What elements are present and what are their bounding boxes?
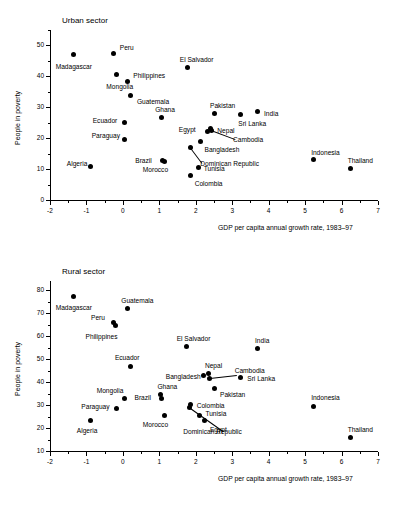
x-tick-minor: [141, 452, 142, 454]
data-point: [162, 159, 167, 164]
x-tick-label: 5: [293, 458, 317, 465]
data-point: [71, 294, 76, 299]
point-label: Colombia: [197, 402, 225, 409]
y-tick-label: 20: [20, 134, 44, 141]
x-tick-minor: [68, 452, 69, 454]
data-point: [111, 51, 116, 56]
x-tick-minor: [360, 452, 361, 454]
data-point: [196, 165, 201, 170]
sector-title: Urban sector: [62, 16, 108, 25]
point-label: India: [264, 110, 278, 117]
point-label: Ecuador: [115, 354, 140, 361]
data-point: [162, 413, 167, 418]
y-tick: [46, 428, 50, 429]
x-tick-label: 0: [111, 458, 135, 465]
data-point: [348, 166, 353, 171]
chart-panel-rural: 1020304050607080-2-101234567Rural sector…: [0, 253, 395, 506]
x-tick-minor: [105, 201, 106, 203]
x-tick-minor: [323, 201, 324, 203]
x-tick: [232, 452, 233, 456]
point-label: Algeria: [77, 427, 98, 434]
y-tick-label: 10: [20, 165, 44, 172]
data-point: [159, 115, 164, 120]
point-label: Cambodia: [235, 367, 265, 374]
x-tick: [232, 201, 233, 205]
x-tick-label: 1: [147, 207, 171, 214]
x-tick-minor: [68, 201, 69, 203]
data-point: [188, 173, 193, 178]
data-point: [209, 128, 214, 133]
x-tick-label: 3: [220, 207, 244, 214]
y-axis-title: People in poverty: [14, 91, 21, 145]
y-tick: [46, 313, 50, 314]
x-tick-minor: [287, 201, 288, 203]
data-point: [114, 406, 119, 411]
data-point: [88, 164, 93, 169]
point-label: Peru: [91, 314, 105, 321]
point-label: Indonesia: [311, 394, 340, 401]
x-tick: [123, 201, 124, 205]
y-tick-label: 50: [20, 41, 44, 48]
point-label: Thailand: [348, 426, 373, 433]
point-label: Paraguay: [92, 132, 120, 139]
y-tick-minor: [48, 371, 50, 372]
data-point: [184, 344, 189, 349]
data-point: [198, 139, 203, 144]
point-label: Philippines: [133, 72, 165, 79]
y-axis-line: [50, 30, 51, 200]
point-label: Sri Lanka: [238, 120, 266, 127]
y-tick: [46, 169, 50, 170]
data-point: [188, 402, 193, 407]
x-tick-minor: [250, 201, 251, 203]
x-tick-label: 4: [257, 207, 281, 214]
data-point: [122, 137, 127, 142]
x-tick-minor: [105, 452, 106, 454]
x-tick: [269, 452, 270, 456]
x-tick-label: 3: [220, 458, 244, 465]
point-label: Paraguay: [81, 403, 109, 410]
data-point: [113, 323, 118, 328]
point-label: Thailand: [348, 157, 373, 164]
point-label: Mongolia: [106, 83, 133, 90]
data-point: [212, 386, 217, 391]
point-label: Peru: [120, 44, 134, 51]
y-tick: [46, 76, 50, 77]
data-point: [188, 145, 193, 150]
point-label: Madagascar: [56, 63, 92, 70]
point-label: Madagascar: [56, 304, 92, 311]
y-tick-label: 40: [20, 378, 44, 385]
y-tick-minor: [48, 61, 50, 62]
x-tick-label: 7: [366, 207, 390, 214]
y-tick-label: 70: [20, 309, 44, 316]
point-label: Egypt: [179, 126, 196, 133]
point-label: Philippines: [86, 333, 118, 340]
point-label: El Salvador: [177, 335, 211, 342]
x-tick-label: -2: [38, 458, 62, 465]
point-label: Colombia: [195, 180, 223, 187]
y-tick: [46, 336, 50, 337]
x-tick-label: 6: [330, 458, 354, 465]
y-tick-label: 10: [20, 447, 44, 454]
y-tick: [46, 138, 50, 139]
point-label: Cambodia: [233, 136, 263, 143]
data-point: [114, 72, 119, 77]
point-label: Tunisia: [205, 410, 226, 417]
x-tick-minor: [178, 201, 179, 203]
data-point: [238, 112, 243, 117]
y-tick-minor: [48, 154, 50, 155]
point-label: Brazil: [135, 157, 152, 164]
y-axis-title: People in poverty: [14, 342, 21, 396]
point-label: Guatemala: [121, 297, 153, 304]
y-tick-label: 20: [20, 424, 44, 431]
data-point: [202, 418, 207, 423]
y-tick-minor: [48, 92, 50, 93]
point-label: Bangladesh: [166, 373, 201, 380]
y-tick-label: 80: [20, 286, 44, 293]
point-label: Algeria: [67, 160, 88, 167]
chart-panel-urban: 01020304050-2-101234567Urban sectorGDP p…: [0, 0, 395, 253]
y-tick-minor: [48, 348, 50, 349]
sector-title: Rural sector: [62, 267, 105, 276]
data-point: [197, 413, 202, 418]
point-label: Mongolia: [97, 387, 124, 394]
x-tick-label: 6: [330, 207, 354, 214]
